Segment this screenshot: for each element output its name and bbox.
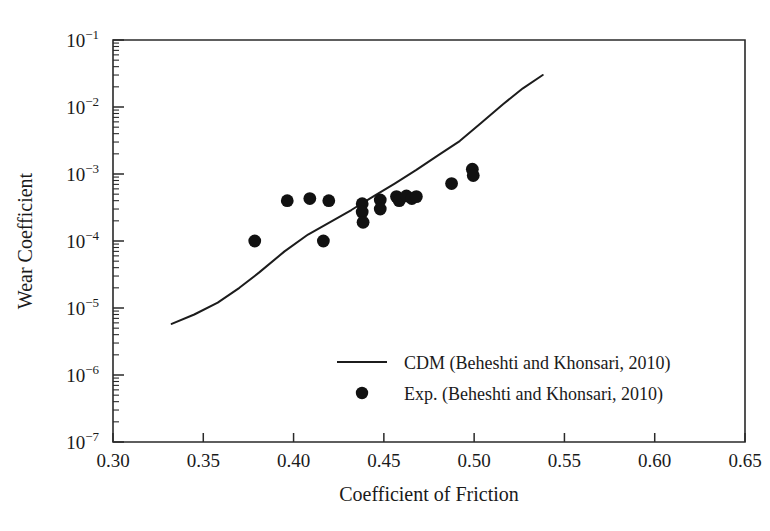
- x-tick-label: 0.30: [96, 450, 129, 471]
- data-point: [322, 194, 335, 207]
- data-point: [357, 216, 370, 229]
- x-tick-label: 0.35: [187, 450, 220, 471]
- x-axis-title: Coefficient of Friction: [339, 483, 519, 505]
- x-tick-label: 0.60: [638, 450, 671, 471]
- figure-container: 10−110−210−310−410−510−610−7 0.300.350.4…: [0, 0, 770, 531]
- x-tick-label: 0.65: [728, 450, 761, 471]
- data-point: [467, 169, 480, 182]
- legend-label-exp: Exp. (Beheshti and Khonsari, 2010): [404, 384, 663, 405]
- y-axis-title: Wear Coefficient: [14, 172, 36, 309]
- data-point: [410, 190, 423, 203]
- legend-dot-swatch: [356, 387, 368, 399]
- x-tick-label: 0.50: [458, 450, 491, 471]
- data-point: [303, 192, 316, 205]
- data-point: [281, 194, 294, 207]
- wear-coefficient-scatter-chart: 10−110−210−310−410−510−610−7 0.300.350.4…: [0, 0, 770, 531]
- x-tick-label: 0.45: [367, 450, 400, 471]
- x-tick-label: 0.55: [548, 450, 581, 471]
- data-point: [445, 177, 458, 190]
- data-point: [374, 203, 387, 216]
- legend-label-cdm: CDM (Beheshti and Khonsari, 2010): [404, 353, 670, 374]
- data-point: [248, 235, 261, 248]
- data-point: [317, 235, 330, 248]
- x-tick-label: 0.40: [277, 450, 310, 471]
